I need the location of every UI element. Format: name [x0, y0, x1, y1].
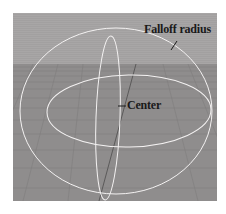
- falloff-radius-label: Falloff radius: [144, 22, 211, 37]
- 3d-viewport: Falloff radius Center: [13, 13, 217, 201]
- viewport-scene: [13, 13, 217, 201]
- center-label: Center: [127, 98, 161, 113]
